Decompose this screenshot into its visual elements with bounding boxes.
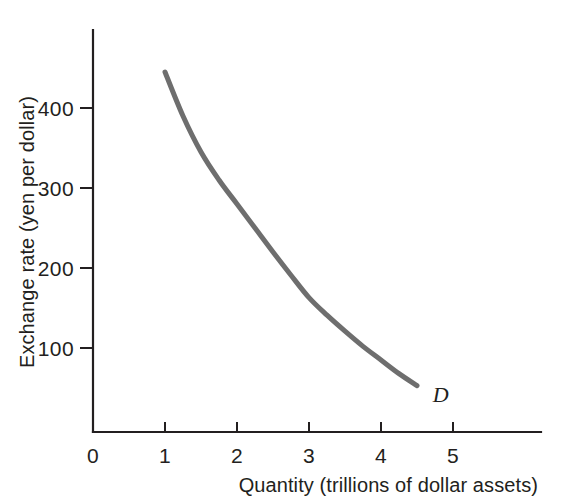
y-tick-label-200: 200	[38, 257, 74, 280]
demand-curve-label: D	[432, 382, 449, 407]
x-tick-label-3: 3	[303, 444, 315, 467]
x-tick-label-5: 5	[447, 444, 459, 467]
x-axis-title: Quantity (trillions of dollar assets)	[239, 474, 538, 496]
y-tick-label-100: 100	[38, 337, 74, 360]
x-tick-label-1: 1	[159, 444, 171, 467]
exchange-rate-demand-chart: 400 300 200 100 0 1 2 3 4 5 Exchange rat…	[0, 0, 565, 500]
y-axis-title: Exchange rate (yen per dollar)	[16, 96, 38, 368]
x-tick-label-2: 2	[231, 444, 243, 467]
chart-figure: 400 300 200 100 0 1 2 3 4 5 Exchange rat…	[0, 0, 565, 500]
y-tick-label-400: 400	[38, 97, 74, 120]
x-tick-label-4: 4	[375, 444, 387, 467]
x-axis-ticks	[165, 422, 453, 432]
demand-curve	[165, 72, 417, 386]
origin-label: 0	[87, 444, 99, 467]
y-tick-label-300: 300	[38, 177, 74, 200]
y-axis-ticks	[80, 108, 93, 348]
